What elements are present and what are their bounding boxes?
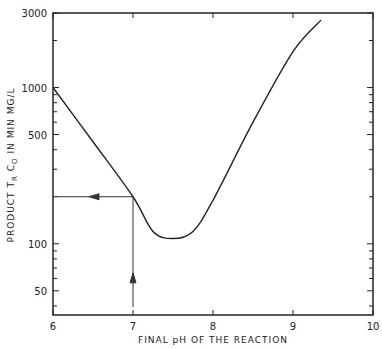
plot-frame <box>53 13 373 315</box>
y-axis-label: PRODUCT TR CO IN MIN MG/L <box>6 88 19 243</box>
y-tick-label: 3000 <box>22 8 47 19</box>
data-curve <box>53 20 321 238</box>
y-tick-label: 50 <box>34 286 47 297</box>
axis-ticks <box>53 13 373 315</box>
y-tick-label: 100 <box>28 239 47 250</box>
x-tick-label: 10 <box>367 321 380 332</box>
x-tick-label: 7 <box>130 321 136 332</box>
tick-labels: 6789105010050010003000 <box>22 8 380 332</box>
x-axis-label: FINAL pH OF THE REACTION <box>138 335 288 345</box>
y-tick-label: 1000 <box>22 83 47 94</box>
y-tick-label: 500 <box>28 130 47 141</box>
x-tick-label: 6 <box>50 321 56 332</box>
chart: 6789105010050010003000 FINAL pH OF THE R… <box>0 0 382 349</box>
x-tick-label: 8 <box>210 321 216 332</box>
x-tick-label: 9 <box>290 321 296 332</box>
annotation-arrows <box>56 194 136 307</box>
